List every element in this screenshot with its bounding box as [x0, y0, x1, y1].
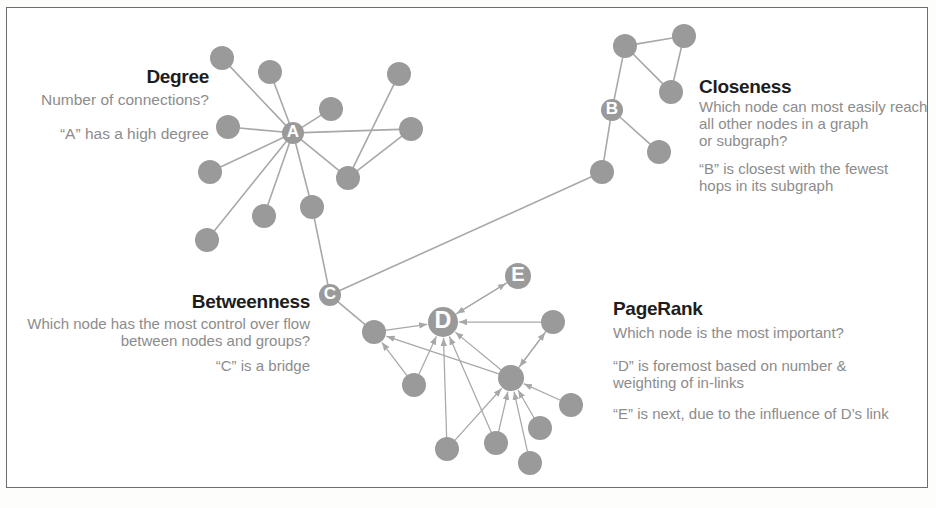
node-label: D — [435, 307, 452, 333]
graph-node — [387, 62, 411, 86]
graph-node — [518, 451, 542, 475]
graph-node — [399, 117, 423, 141]
graph-edge — [498, 392, 507, 432]
graph-node — [402, 373, 426, 397]
graph-node — [484, 431, 508, 455]
graph-edge — [302, 115, 322, 127]
node-label: A — [287, 122, 299, 141]
graph-edge — [239, 128, 282, 132]
graph-edge — [444, 338, 447, 438]
closeness-question: Which node can most easily reach all oth… — [699, 99, 935, 149]
graph-node — [252, 204, 276, 228]
degree-question: Number of connections? — [10, 91, 209, 108]
degree-answer: “A” has a high degree — [10, 125, 209, 142]
graph-edge — [314, 218, 328, 285]
graph-node — [435, 437, 459, 461]
graph-edge — [620, 117, 651, 145]
graph-node — [590, 160, 614, 184]
graph-edge — [385, 324, 427, 330]
graph-node-B: B — [601, 99, 623, 121]
heading-closeness: Closeness — [699, 76, 919, 98]
node-label: E — [511, 263, 524, 285]
graph-node — [559, 393, 583, 417]
graph-node — [216, 115, 240, 139]
graph-node — [528, 416, 552, 440]
pagerank-question: Which node is the most important? — [613, 325, 923, 342]
graph-edge — [274, 83, 289, 124]
graph-edge — [303, 129, 399, 132]
graph-node — [498, 365, 524, 391]
figure-canvas: ACBDE Degree Number of connections? “A” … — [0, 0, 936, 508]
graph-edge — [520, 331, 547, 367]
graph-node-A: A — [282, 122, 304, 144]
graph-edge — [339, 177, 591, 291]
node-label: C — [324, 284, 336, 303]
node-label: B — [606, 99, 618, 118]
graph-edge — [382, 343, 407, 376]
graph-node — [541, 310, 565, 334]
graph-edge — [419, 337, 437, 375]
betweenness-answer: “C” is a bridge — [14, 358, 310, 375]
graph-edge — [674, 47, 682, 81]
graph-node — [659, 80, 683, 104]
graph-node — [362, 320, 386, 344]
graph-node-D: D — [428, 307, 458, 337]
graph-edge — [457, 282, 508, 313]
graph-node — [198, 160, 222, 184]
graph-edge — [301, 139, 339, 170]
graph-node-C: C — [319, 284, 341, 306]
heading-degree: Degree — [20, 66, 209, 88]
betweenness-question: Which node has the most control over flo… — [14, 316, 310, 350]
heading-betweenness: Betweenness — [60, 291, 310, 313]
pagerank-answer: “D” is foremost based on number & weight… — [613, 358, 923, 392]
graph-edge — [514, 392, 527, 452]
pagerank-answer-secondary: “E” is next, due to the influence of D’s… — [613, 406, 933, 423]
graph-edge — [633, 54, 663, 84]
graph-node — [300, 195, 324, 219]
graph-edge — [524, 384, 561, 401]
graph-edge — [357, 136, 402, 171]
graph-edge — [220, 137, 283, 167]
graph-node — [210, 46, 234, 70]
graph-edge — [456, 332, 502, 370]
graph-edge — [353, 84, 394, 168]
graph-node-E: E — [505, 263, 531, 289]
graph-edge — [614, 57, 623, 100]
graph-node — [672, 24, 696, 48]
graph-node — [613, 34, 637, 58]
graph-edge — [338, 302, 365, 325]
graph-edge — [296, 143, 310, 196]
closeness-answer: “B” is closest with the fewest hops in i… — [699, 161, 935, 195]
graph-node — [258, 60, 282, 84]
graph-node — [336, 166, 360, 190]
graph-edge — [450, 337, 492, 433]
graph-edge — [636, 38, 673, 44]
graph-edge — [604, 120, 611, 161]
graph-node — [647, 140, 671, 164]
graph-edge — [518, 391, 534, 419]
graph-node — [319, 97, 343, 121]
heading-pagerank: PageRank — [613, 298, 913, 320]
graph-node — [195, 228, 219, 252]
